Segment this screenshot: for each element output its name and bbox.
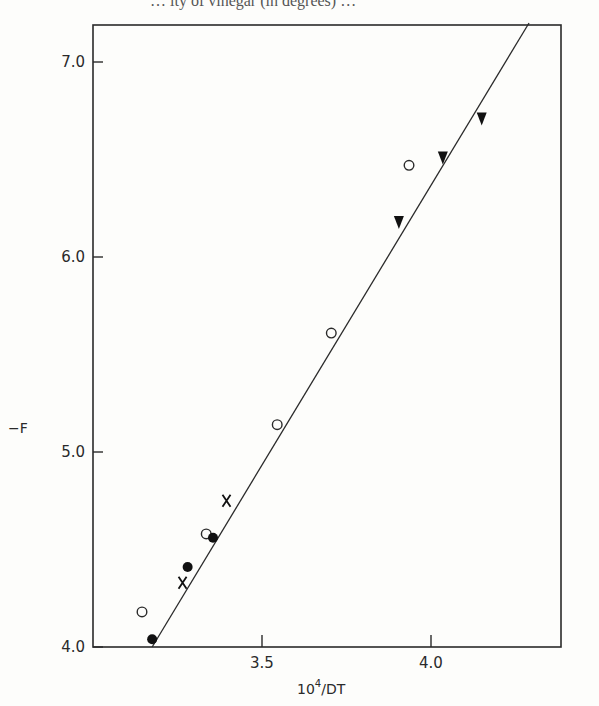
triangle-marker: [394, 216, 404, 229]
filled-circle-marker: [147, 634, 157, 644]
open-circle-marker: [404, 161, 414, 171]
open-circle-marker: [137, 607, 147, 617]
y-axis-label: −F: [8, 420, 28, 436]
chart: … ity of vinegar (in degrees) … 4.05.06.…: [0, 0, 599, 706]
cross-marker: [179, 577, 187, 589]
y-tick-label: 5.0: [61, 443, 85, 461]
filled-circle-marker: [183, 562, 193, 572]
filled-circle-marker: [208, 533, 218, 543]
header-fragment: … ity of vinegar (in degrees) …: [150, 0, 356, 10]
plot-area: 4.05.06.07.03.54.0: [61, 23, 561, 672]
y-tick-label: 7.0: [61, 53, 85, 71]
y-tick-label: 4.0: [61, 638, 85, 656]
fit-line: [152, 23, 529, 647]
y-tick-label: 6.0: [61, 248, 85, 266]
cross-marker: [223, 495, 231, 507]
x-tick-label: 3.5: [250, 654, 274, 672]
open-circle-marker: [272, 420, 282, 430]
triangle-marker: [477, 113, 487, 126]
x-axis-label: 104/DT: [297, 678, 346, 697]
x-tick-label: 4.0: [419, 654, 443, 672]
triangle-marker: [438, 152, 448, 165]
open-circle-marker: [326, 328, 336, 338]
